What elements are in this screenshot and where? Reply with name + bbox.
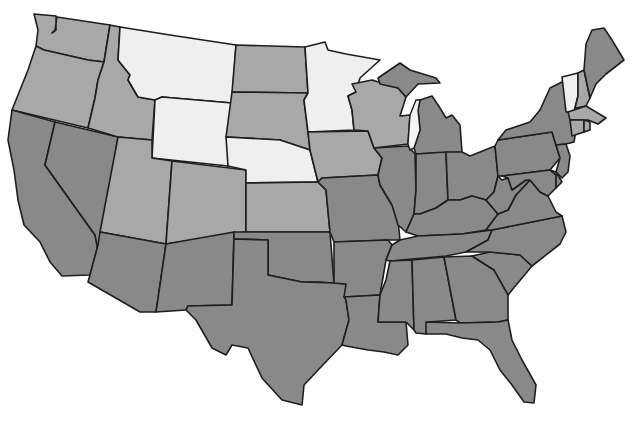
us-states-svg: [0, 0, 634, 421]
state-nm: [156, 232, 234, 312]
state-me: [584, 28, 624, 98]
state-mt: [118, 27, 236, 103]
state-nd: [232, 45, 308, 93]
us-map: [0, 0, 634, 421]
state-oh: [446, 146, 498, 200]
states-layer: [8, 14, 624, 405]
state-wy: [152, 97, 232, 166]
state-mi-lp: [414, 96, 462, 154]
state-ri: [584, 120, 590, 132]
state-fl: [426, 320, 536, 403]
state-az: [88, 232, 166, 312]
state-ct: [570, 120, 584, 136]
state-ks: [246, 182, 330, 232]
